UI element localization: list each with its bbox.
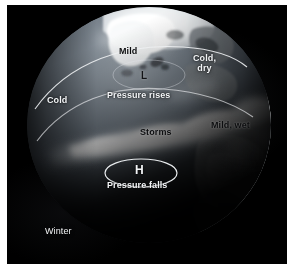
globe-rendering: [7, 5, 287, 264]
space-panel: Mild Cold, dry Cold Pressure rises Storm…: [7, 5, 287, 264]
globe: Mild Cold, dry Cold Pressure rises Storm…: [7, 5, 287, 264]
weather-globe-figure: Mild Cold, dry Cold Pressure rises Storm…: [0, 0, 289, 266]
right-limb-fade: [7, 5, 287, 264]
